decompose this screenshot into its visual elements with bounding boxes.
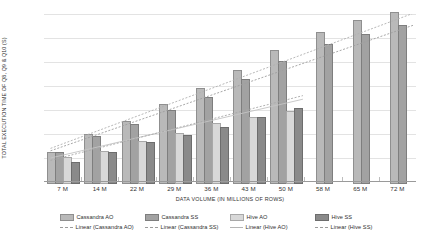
x-axis-tick-label: 72 M <box>379 185 416 195</box>
trendline-swatch-cassandra-ao <box>60 227 73 228</box>
bar <box>108 152 115 182</box>
bar <box>353 20 360 182</box>
bar <box>294 108 301 182</box>
x-axis-title: DATA VOLUME (IN MILLIONS OF ROWS) <box>44 196 416 202</box>
legend-item[interactable]: Cassandra AO <box>60 214 145 221</box>
legend-label: Hive SS <box>332 214 353 220</box>
legend-row-trendlines: Linear (Cassandra AO)Linear (Cassandra S… <box>60 224 400 230</box>
legend-item[interactable]: Hive AO <box>230 214 315 221</box>
trendline-swatch-hive-ao <box>230 227 243 228</box>
bar <box>196 88 203 182</box>
x-axis-tick-label: 7 M <box>44 185 81 195</box>
legend-label: Cassandra AO <box>77 214 114 220</box>
legend-label: Linear (Cassandra AO) <box>76 224 134 230</box>
bar <box>100 151 107 182</box>
plot-area: 020406080100120140 <box>44 14 416 182</box>
bar-group <box>379 14 416 182</box>
bar <box>63 157 70 182</box>
legend-item[interactable]: Hive SS <box>315 214 400 221</box>
x-axis-tick-labels: 7 M14 M22 M29 M36 M43 M50 M58 M65 M72 M <box>44 185 416 195</box>
bar <box>324 44 331 182</box>
bar <box>138 141 145 182</box>
series-swatch-cassandra-ss <box>145 214 159 221</box>
legend-item[interactable]: Linear (Hive SS) <box>315 224 400 230</box>
x-axis-tick-label: 22 M <box>118 185 155 195</box>
bar <box>270 50 277 182</box>
legend-label: Linear (Hive AO) <box>246 224 288 230</box>
bar <box>398 25 405 182</box>
x-axis-line <box>44 181 416 182</box>
bar <box>55 152 62 182</box>
x-axis-tick-label: 36 M <box>193 185 230 195</box>
legend-item[interactable]: Linear (Hive AO) <box>230 224 315 230</box>
bar-group <box>342 14 379 182</box>
bar <box>233 70 240 182</box>
bar <box>212 123 219 182</box>
legend-item[interactable]: Linear (Cassandra SS) <box>145 224 230 230</box>
legend-label: Linear (Cassandra SS) <box>161 224 219 230</box>
bar-group <box>81 14 118 182</box>
bar-group <box>44 14 81 182</box>
x-axis-tick-label: 50 M <box>267 185 304 195</box>
chart-legend: Cassandra AOCassandra SSHive AOHive SS L… <box>60 214 400 233</box>
bar <box>241 79 248 182</box>
bar-group <box>267 14 304 182</box>
bar <box>183 135 190 182</box>
bar <box>390 12 397 182</box>
bar <box>257 117 264 182</box>
bar <box>175 133 182 182</box>
bar-group <box>156 14 193 182</box>
bar-group <box>193 14 230 182</box>
series-swatch-hive-ss <box>315 214 329 221</box>
legend-label: Cassandra SS <box>162 214 199 220</box>
x-axis-tick-label: 58 M <box>304 185 341 195</box>
bar <box>316 32 323 182</box>
legend-item[interactable]: Linear (Cassandra AO) <box>60 224 145 230</box>
trendline-swatch-cassandra-ss <box>145 227 158 228</box>
x-axis-tick-label: 14 M <box>81 185 118 195</box>
bar <box>122 121 129 182</box>
x-axis-tick-label: 29 M <box>156 185 193 195</box>
bar <box>146 142 153 182</box>
bar <box>278 61 285 182</box>
bar-groups <box>44 14 416 182</box>
y-axis-title: TOTAL EXECUTION TIME OF Q8, Q9 & Q10 (S) <box>0 14 10 182</box>
bar-group <box>230 14 267 182</box>
legend-item[interactable]: Cassandra SS <box>145 214 230 221</box>
bar <box>204 97 211 182</box>
bar <box>92 136 99 182</box>
series-swatch-hive-ao <box>230 214 244 221</box>
bar <box>249 117 256 182</box>
bar <box>159 104 166 182</box>
bar-group <box>118 14 155 182</box>
bar-group <box>304 14 341 182</box>
x-axis-tick-label: 43 M <box>230 185 267 195</box>
series-swatch-cassandra-ao <box>60 214 74 221</box>
bar-chart: TOTAL EXECUTION TIME OF Q8, Q9 & Q10 (S)… <box>0 0 428 250</box>
legend-label: Hive AO <box>247 214 268 220</box>
bar <box>361 34 368 182</box>
trendline-swatch-hive-ss <box>315 227 328 228</box>
bar <box>167 110 174 182</box>
bar <box>130 124 137 182</box>
bar <box>47 152 54 182</box>
legend-label: Linear (Hive SS) <box>331 224 373 230</box>
bar <box>286 111 293 182</box>
bar <box>220 127 227 182</box>
x-axis-tick-label: 65 M <box>342 185 379 195</box>
bar <box>71 162 78 182</box>
bar <box>84 134 91 182</box>
legend-row-series: Cassandra AOCassandra SSHive AOHive SS <box>60 214 400 221</box>
